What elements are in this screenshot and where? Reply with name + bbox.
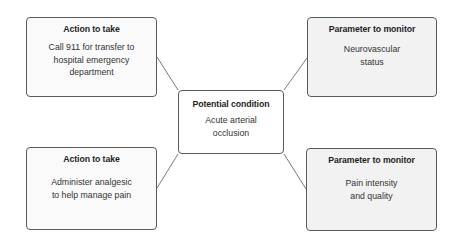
box-text-line: occlusion	[189, 127, 274, 140]
box-title: Potential condition	[183, 98, 279, 109]
connector-top-right	[284, 58, 307, 90]
connector-bottom-right	[284, 154, 306, 189]
connector-bottom-left	[157, 154, 178, 188]
box-text-line: Acute arterial	[189, 114, 274, 127]
box-text-line: and quality	[318, 190, 426, 203]
box-text-line: hospital emergency	[38, 54, 146, 67]
box-body: Acute arterial occlusion	[183, 114, 279, 139]
box-text-line: status	[319, 56, 426, 69]
box-text-line: department	[38, 66, 146, 79]
box-text-line: Call 911 for transfer to	[38, 41, 146, 54]
box-text-line: Administer analgesic	[38, 176, 146, 189]
action-box-analgesic: Action to take Administer analgesic to h…	[26, 147, 157, 230]
box-text-line: to help manage pain	[38, 189, 146, 202]
box-title: Parameter to monitor	[312, 154, 431, 165]
box-text-line: Neurovascular	[319, 43, 426, 56]
box-body: Neurovascular status	[313, 43, 431, 68]
parameter-box-neurovascular: Parameter to monitor Neurovascular statu…	[307, 17, 437, 97]
box-title: Action to take	[32, 153, 151, 164]
box-title: Parameter to monitor	[313, 23, 431, 34]
box-text-line: Pain intensity	[318, 177, 426, 190]
connector-top-left	[157, 57, 178, 90]
box-body: Administer analgesic to help manage pain	[32, 176, 151, 201]
box-body: Call 911 for transfer to hospital emerge…	[32, 41, 151, 79]
action-box-emergency: Action to take Call 911 for transfer to …	[26, 17, 157, 97]
parameter-box-pain: Parameter to monitor Pain intensity and …	[306, 148, 437, 231]
box-body: Pain intensity and quality	[312, 177, 431, 202]
box-title: Action to take	[32, 23, 151, 34]
condition-box-center: Potential condition Acute arterial occlu…	[178, 90, 284, 154]
